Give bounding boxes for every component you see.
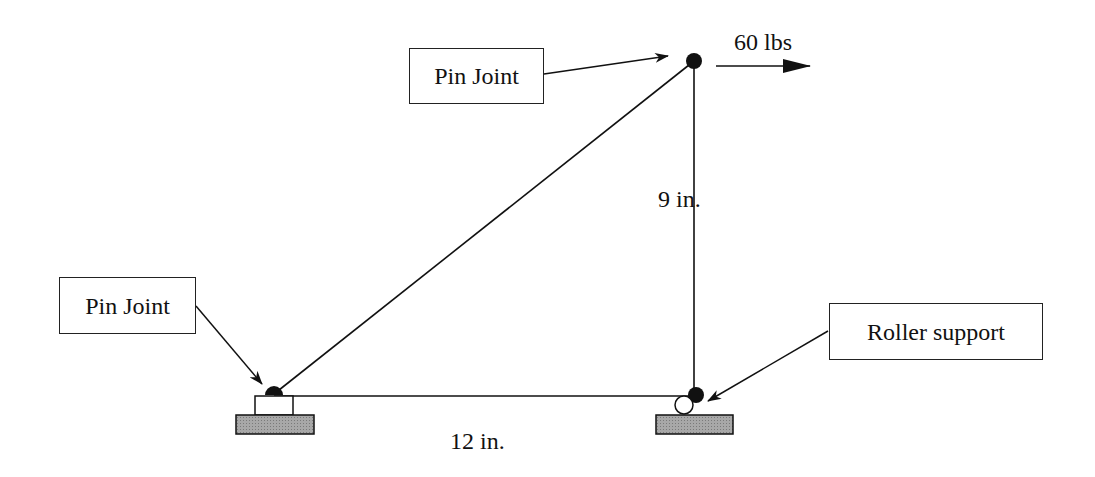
left-pin-leader-arrow-icon xyxy=(196,306,262,384)
left-pin-joint-label: Pin Joint xyxy=(59,277,196,334)
left-pin-joint-text: Pin Joint xyxy=(85,294,170,318)
top-pin-leader-arrow-icon xyxy=(544,56,668,74)
top-pin-joint-icon xyxy=(686,53,702,69)
vertical-dimension: 9 in. xyxy=(658,187,701,211)
pin-support-icon xyxy=(236,386,314,434)
top-pin-joint-text: Pin Joint xyxy=(434,64,519,88)
truss-members xyxy=(274,61,694,396)
horizontal-dimension: 12 in. xyxy=(450,429,505,453)
roller-support-label: Roller support xyxy=(829,303,1043,360)
roller-leader-arrow-icon xyxy=(708,331,828,401)
truss-diagram xyxy=(0,0,1095,477)
roller-support-icon xyxy=(656,387,733,434)
roller-support-text: Roller support xyxy=(867,320,1005,344)
load-value: 60 lbs xyxy=(734,30,792,54)
top-pin-joint-label: Pin Joint xyxy=(409,48,544,104)
diagonal-member xyxy=(274,61,694,394)
